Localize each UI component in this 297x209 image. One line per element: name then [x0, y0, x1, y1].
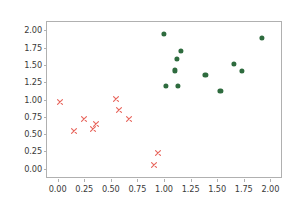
x-tick-mark — [217, 179, 218, 182]
x-tick-mark — [164, 179, 165, 182]
y-tick-label: 1.25 — [24, 77, 42, 87]
data-point-class-1 — [218, 89, 223, 94]
data-point-class-1 — [175, 83, 180, 88]
y-tick-label: 0.25 — [24, 146, 42, 156]
data-point-class-0 — [113, 95, 120, 102]
x-tick-label: 1.00 — [155, 184, 173, 194]
y-tick-label: 0.75 — [24, 112, 42, 122]
data-point-class-0 — [116, 106, 123, 113]
data-point-class-0 — [81, 115, 88, 122]
data-point-class-1 — [174, 56, 179, 61]
x-tick-label: 0.50 — [102, 184, 120, 194]
data-point-class-0 — [70, 128, 77, 135]
data-point-class-1 — [203, 73, 208, 78]
x-tick-mark — [191, 179, 192, 182]
data-point-class-1 — [239, 69, 244, 74]
data-point-class-1 — [172, 68, 177, 73]
data-point-class-1 — [232, 62, 237, 67]
x-tick-mark — [244, 179, 245, 182]
y-tick-label: 0.50 — [24, 129, 42, 139]
y-tick-label: 0.00 — [24, 164, 42, 174]
data-point-class-0 — [56, 99, 63, 106]
y-tick-label: 2.00 — [24, 25, 42, 35]
y-tick-label: 1.75 — [24, 43, 42, 53]
data-point-class-0 — [125, 115, 132, 122]
plot-axes-area: 0.000.250.500.751.001.251.501.752.00 0.0… — [46, 21, 282, 178]
data-point-class-1 — [259, 35, 264, 40]
x-tick-label: 0.25 — [75, 184, 93, 194]
data-point-class-1 — [161, 31, 166, 36]
x-tick-mark — [111, 179, 112, 182]
data-markers-layer — [47, 22, 281, 177]
x-tick-mark — [137, 179, 138, 182]
x-tick-label: 1.75 — [235, 184, 253, 194]
x-tick-mark — [58, 179, 59, 182]
scatter-plot-figure: 0.000.250.500.751.001.251.501.752.00 0.0… — [0, 0, 297, 209]
x-tick-mark — [270, 179, 271, 182]
y-tick-label: 1.50 — [24, 60, 42, 70]
y-tick-label: 1.00 — [24, 95, 42, 105]
x-tick-label: 1.25 — [182, 184, 200, 194]
data-point-class-0 — [154, 150, 161, 157]
x-tick-label: 2.00 — [261, 184, 279, 194]
data-point-class-0 — [151, 162, 158, 169]
data-point-class-1 — [164, 83, 169, 88]
x-tick-mark — [84, 179, 85, 182]
data-point-class-0 — [92, 121, 99, 128]
x-tick-label: 1.50 — [208, 184, 226, 194]
x-tick-label: 0.75 — [128, 184, 146, 194]
data-point-class-0 — [89, 126, 96, 133]
x-tick-label: 0.00 — [49, 184, 67, 194]
data-point-class-1 — [178, 48, 183, 53]
